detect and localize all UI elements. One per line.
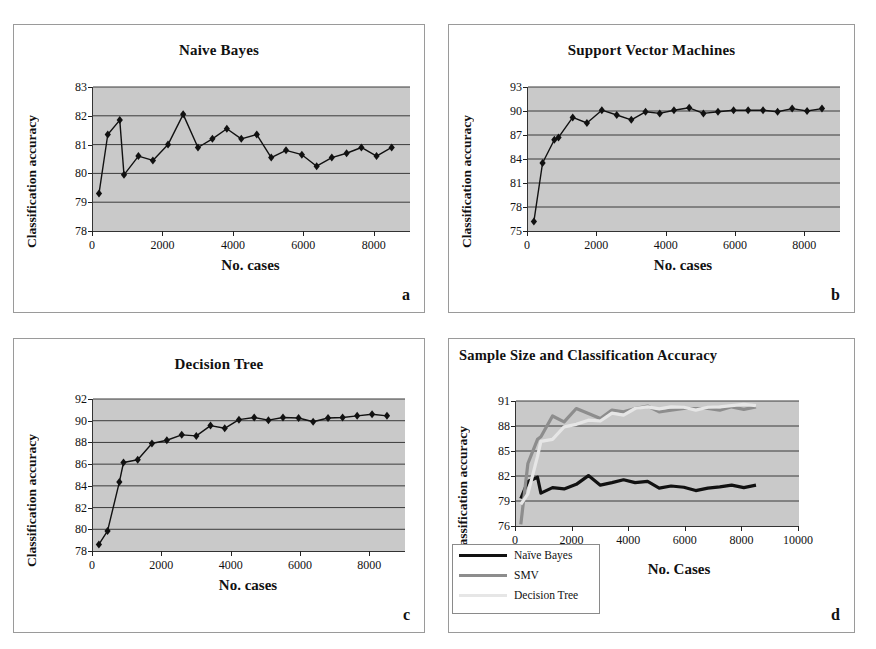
- panel-support-vector-machines: Support Vector Machines Classification a…: [448, 24, 855, 313]
- y-tick-mark: [88, 87, 92, 88]
- x-tick-label: 6000: [673, 533, 697, 548]
- y-tick-label: 88: [498, 419, 510, 434]
- panel-naive-bayes: Naive Bayes Classification accuracy 7879…: [13, 24, 425, 313]
- x-tick-mark: [303, 231, 304, 236]
- legend-combined: Naïve BayesSMVDecision Tree: [452, 544, 600, 614]
- plot-area-svm: [527, 87, 840, 232]
- x-tick-mark: [92, 551, 93, 556]
- y-tick-label: 79: [75, 195, 87, 210]
- y-tick-label: 88: [75, 435, 87, 450]
- x-tick-mark: [527, 231, 528, 236]
- y-axis-label-c: Classification accuracy: [24, 385, 40, 567]
- y-tick-label: 84: [75, 478, 87, 493]
- y-tick-mark: [523, 207, 527, 208]
- data-point-marker: [236, 416, 242, 424]
- data-point-marker: [265, 416, 271, 424]
- data-point-marker: [116, 478, 122, 486]
- x-tick-mark: [374, 231, 375, 236]
- panel-letter-c: c: [403, 606, 410, 624]
- x-axis-label-a: No. cases: [92, 257, 409, 274]
- data-point-marker: [369, 410, 375, 418]
- y-tick-label: 80: [75, 522, 87, 537]
- y-tick-label: 87: [510, 128, 522, 143]
- legend-item-na-ve-bayes[interactable]: Naïve Bayes: [453, 545, 599, 565]
- y-tick-label: 78: [75, 224, 87, 239]
- y-tick-label: 75: [510, 224, 522, 239]
- data-point-marker: [354, 412, 360, 420]
- x-tick-mark: [231, 551, 232, 556]
- panel-letter-d: d: [831, 606, 840, 624]
- y-tick-mark: [88, 145, 92, 146]
- data-point-marker: [599, 106, 605, 114]
- y-tick-mark: [511, 426, 515, 427]
- data-point-marker: [310, 418, 316, 426]
- x-tick-mark: [572, 526, 573, 531]
- x-tick-mark: [596, 231, 597, 236]
- legend-item-decision-tree[interactable]: Decision Tree: [453, 585, 599, 605]
- legend-item-smv[interactable]: SMV: [453, 565, 599, 585]
- plot-area-combined: [515, 401, 799, 527]
- data-point-marker: [179, 431, 185, 439]
- x-tick-mark: [161, 551, 162, 556]
- plot-area-decision-tree: [92, 399, 405, 552]
- data-point-marker: [343, 149, 349, 157]
- x-tick-label: 4000: [616, 533, 640, 548]
- legend-swatch-line-icon: [459, 594, 507, 597]
- data-point-marker: [384, 412, 390, 420]
- x-tick-label: 6000: [291, 238, 315, 253]
- y-tick-mark: [88, 399, 92, 400]
- series-line-na-ve-bayes: [521, 476, 756, 499]
- chart-title-decision-tree: Decision Tree: [14, 356, 424, 373]
- y-tick-mark: [511, 476, 515, 477]
- data-point-marker: [164, 436, 170, 444]
- y-tick-label: 82: [75, 108, 87, 123]
- x-tick-mark: [233, 231, 234, 236]
- series-line-smv: [521, 406, 756, 524]
- y-tick-label: 80: [75, 166, 87, 181]
- y-tick-mark: [523, 111, 527, 112]
- y-tick-label: 85: [498, 444, 510, 459]
- data-point-marker: [329, 154, 335, 162]
- x-tick-mark: [628, 526, 629, 531]
- x-tick-label: 6000: [723, 238, 747, 253]
- data-point-marker: [614, 111, 620, 119]
- data-point-marker: [628, 116, 634, 124]
- data-point-marker: [299, 151, 305, 159]
- series-line-support-vector-machines: [534, 108, 822, 222]
- x-axis-label-c: No. cases: [92, 577, 404, 594]
- data-point-marker: [314, 162, 320, 170]
- y-tick-label: 82: [75, 500, 87, 515]
- data-point-marker: [715, 108, 721, 116]
- y-tick-label: 78: [510, 200, 522, 215]
- y-tick-label: 76: [498, 519, 510, 534]
- x-tick-mark: [369, 551, 370, 556]
- x-tick-label: 8000: [729, 533, 753, 548]
- data-point-marker: [804, 107, 810, 115]
- x-tick-mark: [798, 526, 799, 531]
- x-tick-label: 4000: [219, 558, 243, 573]
- data-point-marker: [96, 190, 102, 198]
- chart-title-svm: Support Vector Machines: [449, 42, 854, 59]
- data-point-marker: [642, 108, 648, 116]
- y-tick-label: 90: [510, 104, 522, 119]
- legend-swatch-line-icon: [459, 574, 507, 577]
- panel-decision-tree: Decision Tree Classification accuracy 78…: [13, 338, 425, 633]
- panel-sample-size-and-classification-accuracy: Sample Size and Classification Accuracy …: [448, 338, 855, 633]
- x-tick-mark: [515, 526, 516, 531]
- data-point-marker: [283, 146, 289, 154]
- y-tick-label: 82: [498, 469, 510, 484]
- plot-area-naive-bayes: [92, 87, 410, 232]
- data-point-marker: [671, 106, 677, 114]
- legend-swatch-line-icon: [459, 554, 507, 557]
- legend-label: SMV: [514, 569, 539, 581]
- y-tick-mark: [511, 401, 515, 402]
- x-tick-mark: [162, 231, 163, 236]
- y-tick-label: 81: [510, 176, 522, 191]
- legend-label: Naïve Bayes: [514, 549, 572, 561]
- y-tick-label: 90: [75, 413, 87, 428]
- x-tick-label: 10000: [783, 533, 813, 548]
- series-line-decision-tree: [99, 414, 387, 544]
- data-point-marker: [224, 125, 230, 133]
- plot-svg: [516, 401, 799, 526]
- x-tick-label: 0: [89, 558, 95, 573]
